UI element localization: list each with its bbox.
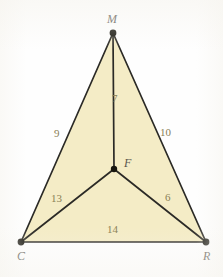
segment-length-fr: 6 <box>165 192 171 203</box>
segment-length-mc: 9 <box>54 128 60 139</box>
figure-canvas <box>0 0 223 277</box>
segment-length-mf: 7 <box>112 93 118 104</box>
segment-length-cr: 14 <box>107 224 118 235</box>
segment-length-cf: 13 <box>51 193 62 204</box>
vertex-dot-r <box>203 239 210 246</box>
geometry-figure: M C R F 7 9 10 13 6 14 <box>0 0 223 277</box>
vertex-label-c: C <box>17 250 25 262</box>
vertex-dot-f <box>111 166 117 172</box>
segment-length-mr: 10 <box>160 127 171 138</box>
vertex-dot-c <box>18 239 25 246</box>
vertex-label-f: F <box>124 157 131 169</box>
vertex-label-m: M <box>107 13 117 25</box>
vertex-dot-m <box>110 30 117 37</box>
vertex-label-r: R <box>203 250 210 262</box>
